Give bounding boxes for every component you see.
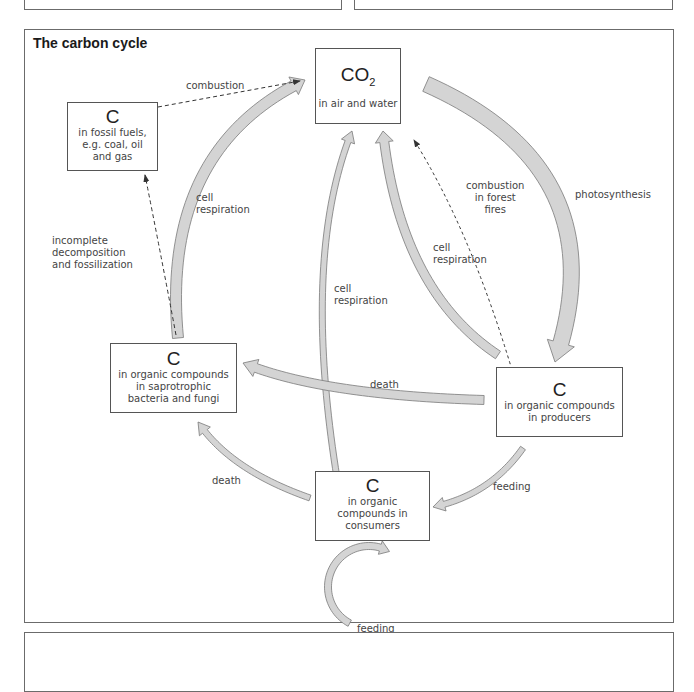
- label-death-consumers: death: [212, 475, 241, 487]
- node-consumers: C in organic compounds in consumers: [315, 471, 430, 541]
- label-cell-respiration-decomposers: cell respiration: [196, 192, 250, 216]
- co2-subscript: 2: [369, 76, 375, 88]
- label-feeding-producers: feeding: [493, 481, 531, 493]
- node-decomposers: C in organic compounds in saprotrophic b…: [110, 343, 237, 413]
- producers-symbol: C: [497, 380, 622, 400]
- label-combustion: combustion: [186, 80, 244, 92]
- consumers-symbol: C: [316, 476, 429, 496]
- fossil-description: in fossil fuels, e.g. coal, oil and gas: [68, 127, 157, 163]
- label-photosynthesis: photosynthesis: [575, 189, 651, 201]
- label-cell-respiration-producers: cell respiration: [433, 242, 487, 266]
- label-death-producers: death: [370, 379, 399, 391]
- arrow-fossilization: [145, 175, 176, 335]
- arrow-respiration-consumers: [319, 131, 354, 491]
- node-producers: C in organic compounds in producers: [496, 367, 623, 437]
- arrow-death-producers: [243, 359, 484, 404]
- label-fossilization: incomplete decomposition and fossilizati…: [52, 235, 133, 271]
- arrow-photosynthesis: [423, 77, 580, 362]
- decomposers-description: in organic compounds in saprotrophic bac…: [111, 369, 236, 405]
- label-cell-respiration-consumers: cell respiration: [334, 283, 388, 307]
- producers-description: in organic compounds in producers: [497, 400, 622, 424]
- decomposers-symbol: C: [111, 349, 236, 369]
- node-co2: CO2 in air and water: [315, 48, 401, 124]
- consumers-description: in organic compounds in consumers: [316, 496, 429, 532]
- arrow-feeding-consumers-loop: [325, 541, 390, 626]
- co2-symbol: CO: [341, 64, 370, 85]
- node-fossil-fuels: C in fossil fuels, e.g. coal, oil and ga…: [67, 102, 158, 171]
- co2-description: in air and water: [316, 98, 400, 110]
- fossil-symbol: C: [68, 107, 157, 127]
- arrow-feeding-producers: [433, 446, 525, 511]
- arrow-death-consumers: [198, 422, 311, 501]
- label-forest-fires: combustion in forest fires: [466, 180, 524, 216]
- next-panel: [24, 632, 674, 692]
